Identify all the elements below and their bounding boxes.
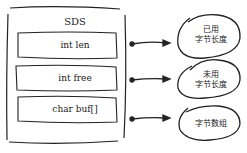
struct-title: SDS [50,16,100,27]
annotation-line1: 已用 [184,25,238,35]
annotation-line2: 字节长度 [184,80,238,90]
annotation-line1: 未用 [184,70,238,80]
annotation-byte-array: 字节数组 [184,119,238,129]
field-int-free: int free [18,73,132,83]
field-int-len: int len [18,40,132,50]
annotation-free-length: 未用 字节长度 [184,70,238,90]
arrow-buf [130,115,170,121]
arrow-free [130,76,170,82]
annotation-line2: 字节长度 [184,35,238,45]
annotation-used-length: 已用 字节长度 [184,25,238,45]
field-char-buf: char buf[] [18,104,132,114]
annotation-line2: 字节数组 [184,119,238,129]
arrow-len [130,40,170,46]
